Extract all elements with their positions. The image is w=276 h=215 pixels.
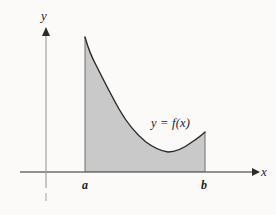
upper-bound-label-b: b bbox=[201, 179, 207, 191]
area-under-curve-figure: y x a b y = f(x) bbox=[0, 0, 276, 215]
y-axis-label: y bbox=[41, 9, 47, 22]
figure-canvas bbox=[0, 0, 276, 215]
y-axis-arrowhead bbox=[42, 27, 50, 36]
x-axis-arrowhead bbox=[252, 168, 260, 176]
lower-bound-label-a: a bbox=[82, 179, 88, 191]
shaded-area-region bbox=[85, 37, 205, 172]
function-curve-label: y = f(x) bbox=[151, 117, 190, 130]
x-axis-label: x bbox=[261, 165, 267, 178]
